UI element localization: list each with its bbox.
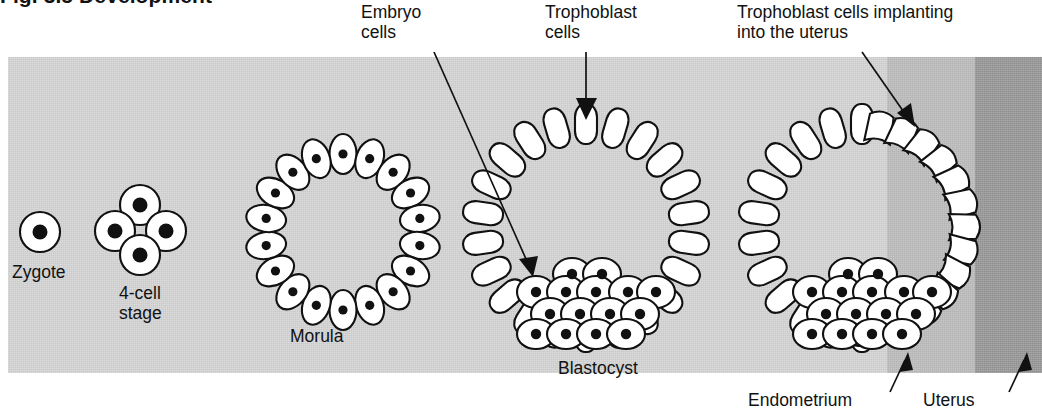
stage-label-blastocyst: Blastocyst: [558, 358, 638, 378]
callout-embryo-cells: Embryo cells: [361, 2, 421, 42]
uterus-band: [975, 57, 1042, 373]
stage-label-morula: Morula: [290, 326, 344, 346]
tissue-label-endometrium: Endometrium: [748, 390, 852, 410]
endometrium-band: [887, 57, 975, 373]
callout-trophoblast-cells: Trophoblast cells: [545, 2, 637, 42]
figure-heading: Fig. 3.5 Development: [0, 0, 212, 8]
embryo-development-figure: Fig. 3.5 Development Embryo cells Tropho…: [0, 0, 1042, 418]
stage-label-four-cell: 4-cell stage: [119, 283, 162, 323]
tissue-label-uterus: Uterus: [923, 390, 975, 410]
callout-trophoblast-implanting: Trophoblast cells implanting into the ut…: [737, 2, 953, 42]
stage-label-zygote: Zygote: [12, 262, 66, 282]
